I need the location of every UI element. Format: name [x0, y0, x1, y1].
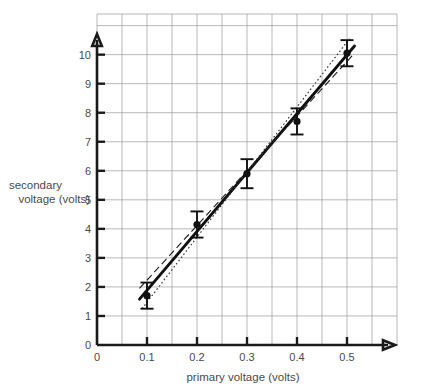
- axes: [92, 34, 395, 350]
- y-tick-label: 8: [85, 107, 91, 119]
- x-tick-label: 0.4: [289, 351, 304, 363]
- y-axis-title-line2: voltage (volts): [18, 193, 90, 205]
- x-tick-label: 0.3: [239, 351, 254, 363]
- y-tick-label: 2: [85, 281, 91, 293]
- chart-container: 012345678910 00.10.20.30.40.5 secondary …: [0, 0, 437, 388]
- y-tick-label: 3: [85, 252, 91, 264]
- x-tick-label: 0.1: [139, 351, 154, 363]
- data-point-group: [241, 159, 254, 188]
- y-tick-label: 0: [85, 339, 91, 351]
- x-axis-title: primary voltage (volts): [186, 371, 299, 383]
- data-point-marker: [193, 221, 200, 228]
- y-tick-label: 7: [85, 136, 91, 148]
- y-tick-label: 1: [85, 310, 91, 322]
- y-tick-label: 4: [85, 223, 91, 235]
- y-tick-label: 9: [85, 78, 91, 90]
- data-point-marker: [143, 292, 150, 299]
- x-tick-label: 0: [94, 351, 100, 363]
- x-tick-label: 0.5: [339, 351, 354, 363]
- data-point-marker: [293, 118, 300, 125]
- x-tick-labels: 00.10.20.30.40.5: [94, 351, 355, 363]
- y-tick-label: 6: [85, 165, 91, 177]
- data-point-marker: [243, 170, 250, 177]
- y-axis-title-line1: secondary: [9, 179, 62, 191]
- x-tick-label: 0.2: [189, 351, 204, 363]
- y-tick-label: 10: [79, 49, 91, 61]
- voltage-scatter-chart: 012345678910 00.10.20.30.40.5 secondary …: [0, 0, 437, 388]
- data-point-marker: [343, 50, 350, 57]
